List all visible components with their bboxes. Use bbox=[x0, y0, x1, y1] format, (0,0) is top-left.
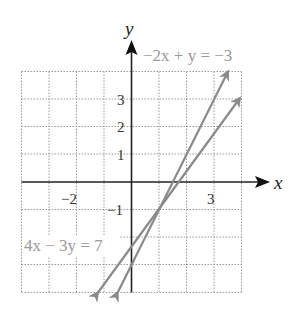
x-axis-label: x bbox=[273, 172, 283, 193]
tick-x-3: 3 bbox=[207, 191, 215, 207]
equation-label-2: 4x − 3y = 7 bbox=[24, 236, 103, 255]
y-axis-label: y bbox=[123, 18, 134, 39]
tick-y-3: 3 bbox=[117, 92, 125, 108]
coordinate-plane: −2 3 3 2 1 −1 y x −2x + y = −3 4x − 3y =… bbox=[0, 0, 297, 315]
x-axis bbox=[22, 176, 271, 188]
tick-y-neg1: −1 bbox=[107, 202, 123, 218]
tick-y-2: 2 bbox=[117, 119, 125, 135]
tick-x-neg2: −2 bbox=[61, 191, 77, 207]
tick-y-1: 1 bbox=[117, 147, 125, 163]
equation-label-1: −2x + y = −3 bbox=[143, 46, 232, 65]
